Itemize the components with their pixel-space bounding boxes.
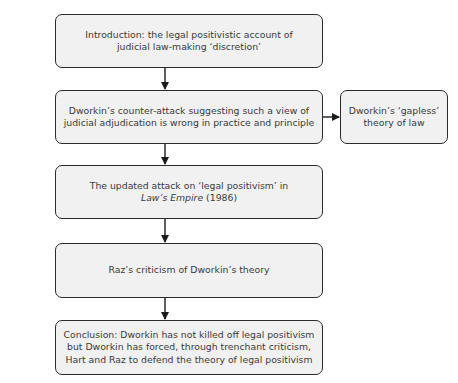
node-text: Hart and Raz to defend the theory of leg… [64,354,315,367]
node-conclusion: Conclusion: Dworkin has not killed off l… [55,320,323,375]
node-text: Dworkin’s ‘gapless’ [349,105,439,118]
node-updated-attack: The updated attack on ‘legal positivism’… [55,165,323,219]
node-text: judicial adjudication is wrong in practi… [64,117,315,130]
node-introduction: Introduction: the legal positivistic acc… [55,14,323,68]
node-text: Conclusion: Dworkin has not killed off l… [64,329,315,342]
book-title: Law’s Empire [141,192,203,203]
node-text: The updated attack on ‘legal positivism’… [90,180,289,193]
node-gapless-theory: Dworkin’s ‘gapless’ theory of law [340,90,448,144]
node-text: (1986) [203,192,237,203]
node-text: judicial law-making ‘discretion’ [85,41,292,54]
node-text: but Dworkin has forced, through trenchan… [64,341,315,354]
node-raz-criticism: Raz’s criticism of Dworkin’s theory [55,243,323,298]
node-counter-attack: Dworkin’s counter-attack suggesting such… [55,90,323,144]
node-text: Dworkin’s counter-attack suggesting such… [64,105,315,118]
node-text: theory of law [349,117,439,130]
node-text: Introduction: the legal positivistic acc… [85,29,292,42]
node-text: Raz’s criticism of Dworkin’s theory [109,264,270,277]
